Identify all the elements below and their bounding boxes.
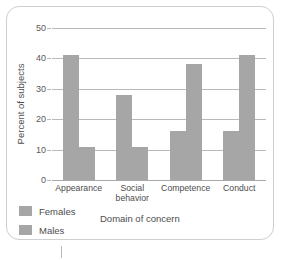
y-tick-label-50: 50 — [36, 23, 46, 33]
bar-males-appearance — [79, 147, 95, 180]
x-axis-title: Domain of concern — [100, 213, 180, 224]
legend-item-males: Males — [19, 222, 75, 238]
bar-females-competence — [170, 131, 186, 180]
bar-females-social-behavior — [116, 95, 132, 180]
plot-area: 01020304050 — [52, 28, 266, 180]
y-tick-dash-50 — [47, 28, 51, 29]
bar-series-layer — [52, 28, 266, 180]
y-tick-label-0: 0 — [41, 175, 46, 185]
gridline-0 — [52, 180, 266, 181]
x-category-conduct: Conduct — [213, 183, 267, 193]
bar-males-conduct — [239, 55, 255, 180]
y-tick-dash-40 — [47, 58, 51, 59]
legend-swatch-icon — [19, 225, 32, 235]
x-category-label-line: Social — [106, 183, 160, 193]
y-tick-dash-30 — [47, 89, 51, 90]
y-axis-title: Percent of subjects — [14, 28, 28, 180]
x-category-label-line: Competence — [159, 183, 213, 193]
legend-item-females: Females — [19, 203, 75, 219]
bar-females-appearance — [63, 55, 79, 180]
y-tick-label-30: 30 — [36, 84, 46, 94]
legend-label: Males — [39, 225, 64, 236]
chart-figure: Percent of subjects 01020304050 Appearan… — [0, 0, 286, 260]
chart-legend: FemalesMales — [19, 203, 75, 241]
x-category-appearance: Appearance — [52, 183, 106, 193]
x-category-label-line: Conduct — [213, 183, 267, 193]
y-tick-dash-10 — [47, 150, 51, 151]
y-tick-label-40: 40 — [36, 53, 46, 63]
frame-bottom-tick-mark — [61, 246, 62, 258]
x-category-label-line: behavior — [106, 193, 160, 203]
bar-males-social-behavior — [132, 147, 148, 180]
y-tick-label-10: 10 — [36, 145, 46, 155]
bar-females-conduct — [223, 131, 239, 180]
x-category-social-behavior: Socialbehavior — [106, 183, 160, 203]
x-category-competence: Competence — [159, 183, 213, 193]
y-tick-label-20: 20 — [36, 114, 46, 124]
x-category-label-line: Appearance — [52, 183, 106, 193]
legend-label: Females — [39, 206, 75, 217]
bar-males-competence — [186, 64, 202, 180]
legend-swatch-icon — [19, 206, 32, 216]
y-tick-dash-20 — [47, 119, 51, 120]
y-tick-dash-0 — [47, 180, 51, 181]
